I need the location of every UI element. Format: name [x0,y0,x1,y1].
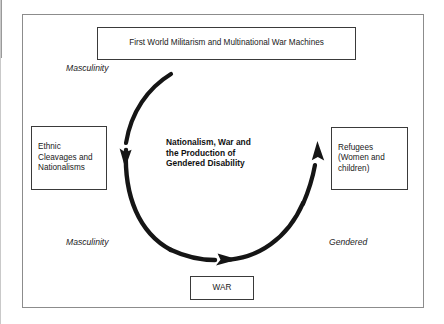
node-box-war[interactable]: WAR [190,276,254,300]
annotation-gendered: Gendered [329,237,367,247]
figure-root: First World Militarism and Multinational… [0,0,444,324]
node-box-first-world-militarism[interactable]: First World Militarism and Multinational… [97,27,356,60]
node-box-right-label: Refugees (Women and children) [338,143,385,174]
node-box-refugees[interactable]: Refugees (Women and children) [331,127,408,190]
page-margin-rule-top [1,0,2,58]
annotation-masculinity-bottom: Masculinity [66,237,109,247]
figure-center-caption: Nationalism, War and the Production of G… [166,137,286,169]
node-box-left-label: Ethnic Cleavages and Nationalisms [38,142,93,173]
node-box-war-label: WAR [213,283,232,293]
node-box-top-label: First World Militarism and Multinational… [129,38,324,48]
annotation-masculinity-top: Masculinity [66,63,109,73]
node-box-ethnic-cleavages[interactable]: Ethnic Cleavages and Nationalisms [31,126,107,190]
